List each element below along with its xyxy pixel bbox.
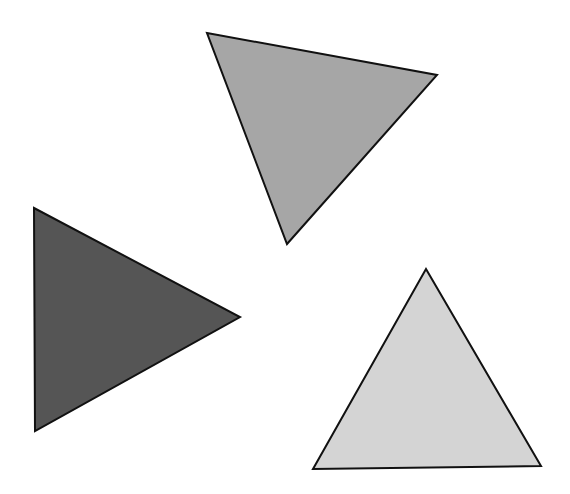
diagram-canvas: [0, 0, 570, 494]
triangle-medium-gray: [207, 33, 437, 244]
triangle-dark-gray: [34, 208, 240, 431]
triangle-light-gray: [313, 269, 541, 469]
